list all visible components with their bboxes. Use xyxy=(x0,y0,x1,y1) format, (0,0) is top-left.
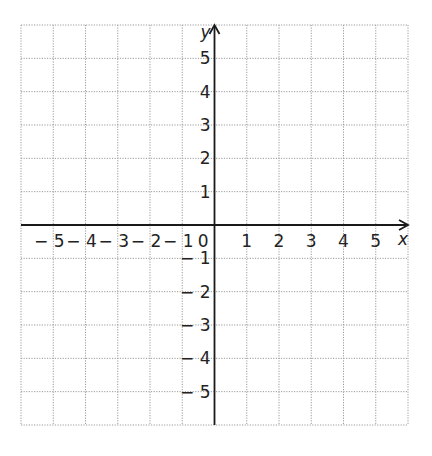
y-tick-label: − 3 xyxy=(180,315,210,335)
axes xyxy=(21,25,408,425)
x-axis-label: x xyxy=(397,229,409,249)
y-tick-label: − 4 xyxy=(180,348,210,368)
x-tick-label: 1 xyxy=(241,231,252,251)
y-tick-label: 1 xyxy=(200,182,211,202)
x-tick-label: − 2 xyxy=(131,231,161,251)
x-tick-label: − 4 xyxy=(66,231,96,251)
y-tick-label: − 1 xyxy=(180,248,210,268)
tick-labels: − 5− 4− 3− 2− 11234554321− 1− 2− 3− 4− 5… xyxy=(34,22,409,402)
y-tick-label: − 2 xyxy=(180,282,210,302)
x-tick-label: − 3 xyxy=(99,231,129,251)
y-axis-label: y xyxy=(199,22,211,42)
x-tick-label: 5 xyxy=(370,231,381,251)
y-tick-label: 2 xyxy=(200,148,211,168)
x-tick-label: 3 xyxy=(306,231,317,251)
y-tick-label: 5 xyxy=(200,48,211,68)
y-tick-label: 4 xyxy=(200,82,211,102)
origin-label: 0 xyxy=(198,231,209,251)
x-tick-label: 4 xyxy=(338,231,349,251)
y-tick-label: 3 xyxy=(200,115,211,135)
x-tick-label: 2 xyxy=(274,231,285,251)
coordinate-grid-diagram: − 5− 4− 3− 2− 11234554321− 1− 2− 3− 4− 5… xyxy=(0,0,432,456)
y-tick-label: − 5 xyxy=(180,382,210,402)
x-tick-label: − 5 xyxy=(34,231,64,251)
